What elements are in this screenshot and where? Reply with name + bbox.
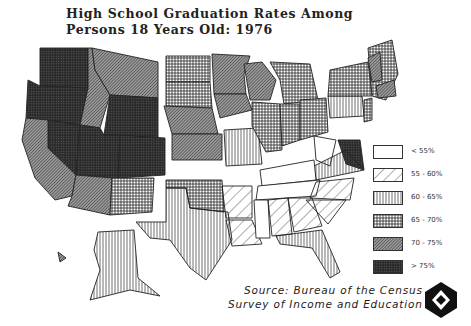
title-line-2: Persons 18 Years Old: 1976 xyxy=(66,22,353,38)
legend-swatch-sparse-diagonal xyxy=(373,168,403,182)
state-iowa xyxy=(214,94,252,118)
source-line-1: Source: Bureau of the Census xyxy=(228,283,423,297)
state-ohio xyxy=(300,98,328,140)
legend-label: < 55% xyxy=(411,147,435,155)
state-hawaii xyxy=(58,252,66,262)
legend-label: 70 - 75% xyxy=(411,239,442,247)
state-alaska xyxy=(90,230,160,300)
legend-swatch-dense-grid xyxy=(373,260,403,274)
state-new-jersey xyxy=(364,98,372,122)
legend-item-55-60: 55 - 60% xyxy=(373,168,471,184)
legend-item-below-55: < 55% xyxy=(373,145,471,161)
state-alabama xyxy=(268,198,292,236)
legend-label: 60 - 65% xyxy=(411,193,442,201)
legend-item-above-75: > 75% xyxy=(373,260,471,276)
us-choropleth-map xyxy=(0,0,471,326)
state-pennsylvania xyxy=(328,96,364,118)
map-title: High School Graduation Rates Among Perso… xyxy=(66,6,353,38)
legend-swatch-dense-diagonal xyxy=(373,237,403,251)
legend-item-65-70: 65 - 70% xyxy=(373,214,471,230)
legend-label: 65 - 70% xyxy=(411,216,442,224)
state-new-mexico xyxy=(110,178,154,215)
legend-item-70-75: 70 - 75% xyxy=(373,237,471,253)
state-arizona xyxy=(68,175,112,215)
state-new-york xyxy=(328,62,372,96)
state-kansas xyxy=(172,134,222,160)
state-nebraska xyxy=(164,106,218,134)
state-wisconsin xyxy=(244,62,276,100)
state-michigan xyxy=(270,62,318,104)
state-mississippi xyxy=(254,200,270,238)
state-arkansas xyxy=(222,186,252,218)
legend-label: 55 - 60% xyxy=(411,170,442,178)
legend-swatch-blank xyxy=(373,145,403,159)
legend-item-60-65: 60 - 65% xyxy=(373,191,471,207)
source-line-2: Survey of Income and Education xyxy=(228,297,423,311)
state-colorado xyxy=(118,135,165,178)
state-indiana xyxy=(280,104,300,146)
legend-swatch-grid xyxy=(373,214,403,228)
state-florida xyxy=(276,230,340,278)
legend-swatch-vertical-lines xyxy=(373,191,403,205)
source-note: Source: Bureau of the Census Survey of I… xyxy=(228,283,423,311)
state-minnesota xyxy=(212,54,250,94)
state-washington xyxy=(40,48,88,88)
title-line-1: High School Graduation Rates Among xyxy=(66,6,353,22)
state-wyoming xyxy=(104,95,158,138)
legend-label: > 75% xyxy=(411,262,435,270)
state-south-dakota xyxy=(166,82,212,108)
state-north-dakota xyxy=(166,56,210,82)
hexagon-cube-logo-icon xyxy=(423,280,459,320)
